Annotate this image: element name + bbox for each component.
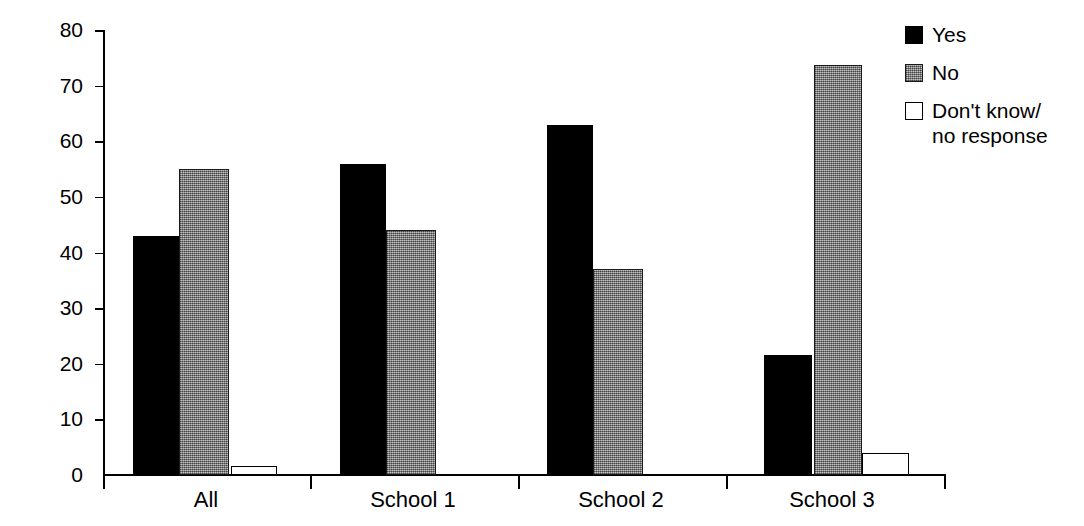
- x-label-all: All: [106, 487, 306, 513]
- legend-swatch-gray-square-icon: [905, 64, 923, 82]
- bar-all-no: [179, 169, 229, 475]
- x-label-school-3: School 3: [732, 487, 932, 513]
- y-tick-label-40: 40: [13, 242, 83, 263]
- legend-label-dont-know: Don't know/ no response: [932, 98, 1048, 148]
- bar-all-dont-know: [231, 466, 277, 476]
- legend-swatch-white-square-icon: [905, 102, 923, 120]
- legend-swatch-black-square-icon: [905, 26, 923, 44]
- bar-school2-no: [593, 269, 643, 475]
- y-tick-label-10: 10: [13, 408, 83, 429]
- x-tick-0: [103, 476, 105, 489]
- y-tick-80: [95, 30, 103, 32]
- bar-all-yes: [133, 236, 179, 475]
- legend-label-yes: Yes: [932, 22, 966, 47]
- legend-item-yes: Yes: [905, 22, 1084, 47]
- y-tick-label-60: 60: [13, 130, 83, 151]
- y-tick-label-20: 20: [13, 353, 83, 374]
- chart-figure: Percentage of respondents 80 70 60 50 40…: [0, 0, 1084, 526]
- legend-label-no: No: [932, 60, 959, 85]
- chart-title-cropped: [0, 0, 1084, 4]
- y-tick-label-0: 0: [13, 464, 83, 485]
- y-tick-label-30: 30: [13, 297, 83, 318]
- bar-school1-no: [386, 230, 436, 475]
- bar-school3-no: [814, 65, 862, 475]
- bar-school3-yes: [764, 355, 812, 475]
- x-tick-1: [310, 476, 312, 489]
- y-tick-70: [95, 86, 103, 88]
- y-tick-50: [95, 197, 103, 199]
- y-tick-20: [95, 364, 103, 366]
- bar-school3-dont-know: [862, 453, 909, 475]
- y-tick-label-70: 70: [13, 75, 83, 96]
- x-label-school-2: School 2: [521, 487, 721, 513]
- y-tick-10: [95, 419, 103, 421]
- x-label-school-1: School 1: [313, 487, 513, 513]
- y-tick-30: [95, 308, 103, 310]
- x-tick-3: [726, 476, 728, 489]
- chart-legend: Yes No Don't know/ no response: [905, 22, 1084, 161]
- y-tick-60: [95, 141, 103, 143]
- bar-school1-yes: [340, 164, 386, 476]
- legend-item-dont-know: Don't know/ no response: [905, 98, 1084, 148]
- bar-school2-yes: [547, 125, 593, 475]
- x-tick-4: [944, 476, 946, 489]
- x-tick-2: [518, 476, 520, 489]
- legend-item-no: No: [905, 60, 1084, 85]
- y-tick-40: [95, 253, 103, 255]
- y-tick-label-80: 80: [13, 19, 83, 40]
- y-tick-label-50: 50: [13, 186, 83, 207]
- plot-area: Percentage of respondents 80 70 60 50 40…: [103, 30, 945, 475]
